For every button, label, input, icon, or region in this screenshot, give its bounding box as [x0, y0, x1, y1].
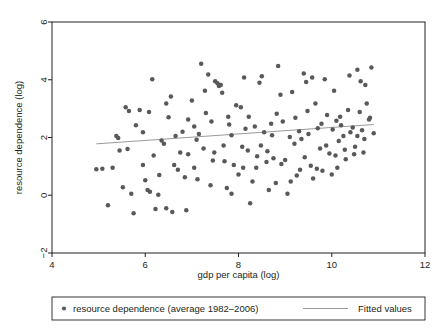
scatter-point: [292, 142, 297, 147]
scatter-point: [211, 158, 216, 163]
scatter-point: [293, 116, 298, 121]
scatter-point: [131, 211, 136, 216]
scatter-point: [225, 186, 230, 191]
scatter-point: [203, 88, 208, 93]
y-tick-label: 6: [38, 19, 49, 24]
scatter-point: [262, 130, 267, 135]
scatter-point: [127, 109, 132, 114]
scatter-point: [229, 192, 234, 197]
legend-line-label: Fitted values: [358, 303, 412, 314]
scatter-point: [350, 125, 355, 130]
scatter-point: [204, 111, 209, 116]
scatter-point: [164, 206, 169, 211]
scatter-point: [117, 148, 122, 153]
scatter-point: [141, 163, 146, 168]
scatter-point: [311, 176, 316, 181]
scatter-point: [195, 177, 200, 182]
scatter-point: [347, 73, 352, 78]
scatter-point: [319, 121, 324, 126]
scatter-point: [271, 156, 276, 161]
scatter-point: [343, 157, 348, 162]
scatter-point: [241, 166, 246, 171]
scatter-point: [222, 159, 227, 164]
scatter-point: [209, 119, 214, 124]
scatter-point: [247, 114, 252, 119]
scatter-point: [255, 154, 260, 159]
scatter-point: [360, 128, 365, 133]
scatter-point: [257, 80, 262, 85]
scatter-point: [335, 166, 340, 171]
x-tick-label: 4: [49, 259, 54, 270]
scatter-point: [150, 77, 155, 82]
scatter-point: [129, 192, 134, 197]
y-axis-ticks: −20246: [38, 19, 52, 258]
scatter-point: [302, 155, 307, 160]
scatter-point: [265, 149, 270, 154]
scatter-point: [274, 181, 279, 186]
scatter-point: [206, 72, 211, 77]
scatter-point: [371, 131, 376, 136]
scatter-point: [361, 150, 366, 155]
y-tick-label: −2: [38, 248, 49, 259]
scatter-point: [320, 168, 325, 173]
scatter-point: [197, 132, 202, 137]
scatter-point: [283, 158, 288, 163]
scatter-point: [295, 173, 300, 178]
scatter-point: [250, 179, 255, 184]
scatter-point: [151, 153, 156, 158]
scatter-point: [341, 134, 346, 139]
scatter-point: [270, 133, 275, 138]
scatter-point: [318, 146, 323, 151]
scatter-point: [269, 121, 274, 126]
scatter-point: [267, 188, 272, 193]
x-axis-ticks: 4681012: [49, 253, 430, 270]
scatter-point: [176, 168, 181, 173]
scatter-point: [190, 98, 195, 103]
scatter-point: [358, 79, 363, 84]
scatter-point: [332, 88, 337, 93]
scatter-point: [194, 138, 199, 143]
scatter-point: [346, 108, 351, 113]
scatter-point: [173, 134, 178, 139]
scatter-point: [304, 80, 309, 85]
scatter-point: [192, 124, 197, 129]
scatter-point: [325, 113, 330, 118]
scatter-point: [259, 143, 264, 148]
scatter-point: [234, 103, 239, 108]
scatter-point: [324, 143, 329, 148]
chart-figure: −20246 4681012 resource dependence (log)…: [0, 0, 446, 331]
scatter-point: [274, 112, 279, 117]
scatter-points-layer: [94, 62, 376, 216]
scatter-point: [125, 147, 130, 152]
scatter-point: [348, 130, 353, 135]
scatter-point: [355, 134, 360, 139]
scatter-point: [362, 137, 367, 142]
x-axis-title: gdp per capita (log): [198, 269, 280, 280]
scatter-point: [123, 105, 128, 110]
scatter-point: [166, 115, 171, 120]
scatter-point: [290, 90, 295, 95]
scatter-point: [153, 207, 158, 212]
scatter-point: [313, 101, 318, 106]
scatter-point: [183, 175, 188, 180]
scatter-point: [254, 166, 259, 171]
scatter-point: [316, 126, 321, 131]
scatter-point: [336, 139, 341, 144]
scatter-point: [116, 136, 121, 141]
scatter-point: [243, 127, 248, 132]
scatter-point: [186, 117, 191, 122]
scatter-point: [236, 172, 241, 177]
scatter-point: [288, 179, 293, 184]
scatter-point: [306, 132, 311, 137]
scatter-point: [305, 109, 310, 114]
scatter-point: [208, 183, 213, 188]
scatter-point: [309, 164, 314, 169]
scatter-point: [239, 105, 244, 110]
scatter-point: [156, 192, 161, 197]
scatter-point: [121, 185, 126, 190]
scatter-point: [242, 75, 247, 80]
scatter-point: [141, 130, 146, 135]
scatter-point: [220, 90, 225, 95]
y-axis-title: resource dependence (log): [13, 81, 24, 195]
scatter-point: [94, 167, 99, 172]
